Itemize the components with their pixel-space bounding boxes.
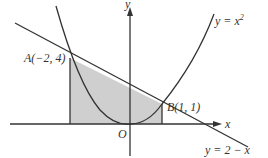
point-b-label: B(1, 1) (167, 100, 200, 114)
parabola-label: y = x2 (214, 13, 244, 28)
y-axis-label: y (124, 0, 131, 11)
origin-label: O (118, 127, 127, 141)
line-y-2-minus-x (15, 23, 248, 147)
x-axis-label: x (224, 117, 231, 131)
shaded-region (70, 58, 162, 124)
line-label: y = 2 − x (204, 143, 251, 157)
parabola-exponent: 2 (240, 13, 244, 22)
x-axis-arrow-icon (213, 121, 222, 127)
point-a-label: A(−2, 4) (23, 51, 65, 65)
diagram-canvas: A(−2, 4) B(1, 1) O x y y = x2 y = 2 − x (0, 0, 268, 158)
